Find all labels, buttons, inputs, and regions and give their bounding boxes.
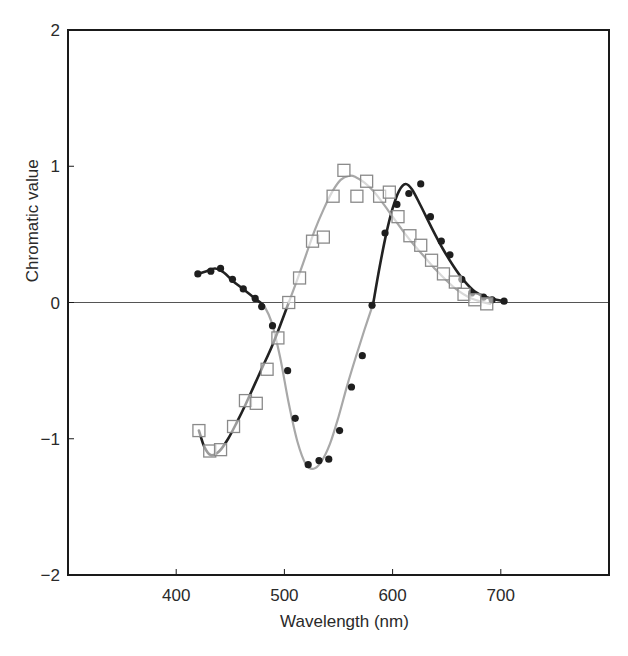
data-point-square bbox=[327, 190, 339, 202]
data-point-square bbox=[392, 211, 404, 223]
data-point-circle bbox=[325, 456, 332, 463]
data-point-circle bbox=[405, 190, 412, 197]
data-point-circle bbox=[500, 298, 507, 305]
data-point-circle bbox=[393, 201, 400, 208]
data-point-square bbox=[437, 268, 449, 280]
data-point-square bbox=[228, 420, 240, 432]
data-point-circle bbox=[194, 270, 201, 277]
data-point-circle bbox=[427, 213, 434, 220]
x-tick-label: 600 bbox=[378, 586, 406, 605]
data-point-square bbox=[250, 397, 262, 409]
data-point-circle bbox=[292, 415, 299, 422]
y-axis-title: Chromatic value bbox=[23, 159, 42, 282]
y-tick-label: 1 bbox=[51, 157, 60, 176]
data-point-circle bbox=[305, 461, 312, 468]
data-point-circle bbox=[207, 268, 214, 275]
data-point-square bbox=[294, 272, 306, 284]
chart: 400500600700 −2−1012 Wavelength (nm) Chr… bbox=[0, 0, 628, 656]
data-point-square bbox=[215, 444, 227, 456]
data-point-circle bbox=[336, 427, 343, 434]
data-point-circle bbox=[269, 322, 276, 329]
background bbox=[0, 0, 628, 656]
data-point-square bbox=[317, 231, 329, 243]
data-point-square bbox=[481, 298, 493, 310]
data-point-square bbox=[261, 363, 273, 375]
y-tick-label: 0 bbox=[51, 294, 60, 313]
data-point-square bbox=[193, 425, 205, 437]
y-tick-label: 2 bbox=[51, 21, 60, 40]
data-point-circle bbox=[315, 457, 322, 464]
x-tick-label: 500 bbox=[270, 586, 298, 605]
data-point-circle bbox=[348, 383, 355, 390]
data-point-square bbox=[272, 332, 284, 344]
data-point-circle bbox=[229, 276, 236, 283]
data-point-circle bbox=[258, 303, 265, 310]
data-point-circle bbox=[381, 229, 388, 236]
data-point-circle bbox=[359, 352, 366, 359]
data-point-square bbox=[426, 254, 438, 266]
data-point-circle bbox=[438, 238, 445, 245]
data-point-square bbox=[469, 294, 481, 306]
data-point-square bbox=[383, 186, 395, 198]
data-point-circle bbox=[284, 367, 291, 374]
data-point-square bbox=[415, 239, 427, 251]
data-point-square bbox=[283, 297, 295, 309]
data-point-circle bbox=[446, 251, 453, 258]
data-point-circle bbox=[240, 285, 247, 292]
y-tick-label: −1 bbox=[41, 430, 60, 449]
x-axis-title: Wavelength (nm) bbox=[280, 612, 409, 631]
data-point-circle bbox=[217, 265, 224, 272]
y-tick-label: −2 bbox=[41, 566, 60, 585]
data-point-square bbox=[361, 175, 373, 187]
data-point-square bbox=[449, 276, 461, 288]
x-tick-label: 400 bbox=[162, 586, 190, 605]
data-point-circle bbox=[252, 295, 259, 302]
data-point-square bbox=[338, 164, 350, 176]
data-point-circle bbox=[368, 302, 375, 309]
data-point-square bbox=[351, 190, 363, 202]
data-point-circle bbox=[417, 180, 424, 187]
x-tick-label: 700 bbox=[487, 586, 515, 605]
